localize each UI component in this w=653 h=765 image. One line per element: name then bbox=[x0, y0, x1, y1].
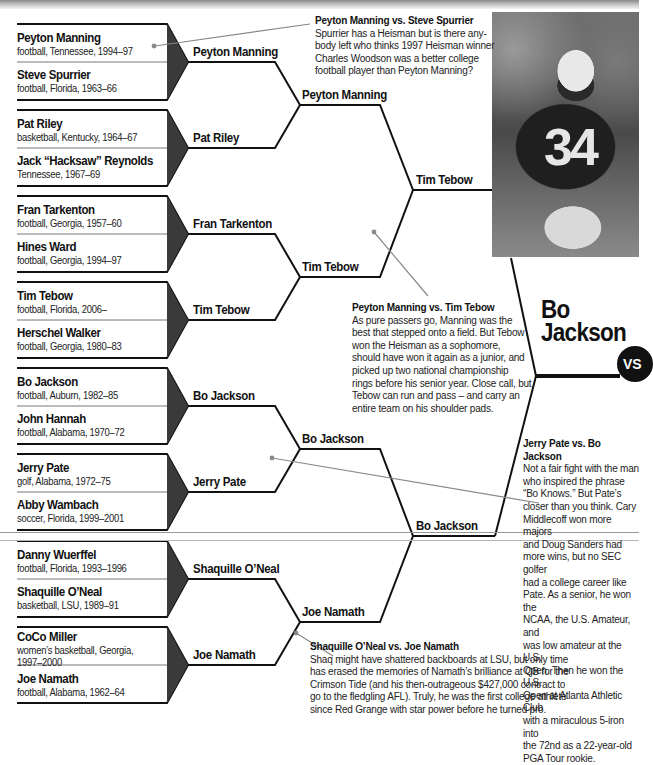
round2-winner: Bo Jackson bbox=[193, 389, 255, 403]
bo-jackson-photo: 34 bbox=[492, 12, 639, 257]
entrant: Joe Namathfootball, Alabama, 1962–64 bbox=[17, 672, 165, 698]
round3-winner: Peyton Manning bbox=[302, 88, 387, 102]
jersey-number: 34 bbox=[544, 117, 596, 177]
note-manning-spurrier: Peyton Manning vs. Steve Spurrier Spurri… bbox=[315, 15, 495, 78]
round2-winner: Fran Tarkenton bbox=[193, 217, 272, 231]
round3-winner: Bo Jackson bbox=[302, 432, 364, 446]
note-manning-tebow: Peyton Manning vs. Tim Tebow As pure pas… bbox=[352, 302, 542, 415]
entrant: Abby Wambachsoccer, Florida, 1999–2001 bbox=[17, 498, 165, 524]
round3-winner: Joe Namath bbox=[302, 605, 364, 619]
entrant: Hines Wardfootball, Georgia, 1994–97 bbox=[17, 240, 165, 266]
entrant: Danny Wuerffelfootball, Florida, 1993–19… bbox=[17, 548, 165, 574]
entrant: Steve Spurrierfootball, Florida, 1963–66 bbox=[17, 68, 165, 94]
vs-badge: VS bbox=[617, 346, 653, 382]
entrant: Bo Jacksonfootball, Auburn, 1982–85 bbox=[17, 375, 165, 401]
round2-winner: Pat Riley bbox=[193, 131, 239, 145]
entrant: Shaquille O’Nealbasketball, LSU, 1989–91 bbox=[17, 585, 165, 611]
champion-name: Bo Jackson bbox=[541, 298, 626, 344]
entrant: Jerry Pategolf, Alabama, 1972–75 bbox=[17, 461, 165, 487]
entrant: Fran Tarkentonfootball, Georgia, 1957–60 bbox=[17, 203, 165, 229]
entrant: Herschel Walkerfootball, Georgia, 1980–8… bbox=[17, 326, 165, 352]
round2-winner: Tim Tebow bbox=[193, 303, 250, 317]
round4-winner: Tim Tebow bbox=[416, 173, 473, 187]
entrant: John Hannahfootball, Alabama, 1970–72 bbox=[17, 412, 165, 438]
entrant: CoCo Millerwomen’s basketball, Georgia,1… bbox=[17, 630, 165, 668]
entrant: Peyton Manningfootball, Tennessee, 1994–… bbox=[17, 31, 165, 57]
entrant: Pat Rileybasketball, Kentucky, 1964–67 bbox=[17, 117, 165, 143]
round2-winner: Jerry Pate bbox=[193, 475, 246, 489]
entrant: Jack “Hacksaw” ReynoldsTennessee, 1967–6… bbox=[17, 154, 165, 180]
entrant: Tim Tebowfootball, Florida, 2006– bbox=[17, 289, 165, 315]
round2-winner: Peyton Manning bbox=[193, 45, 278, 59]
round3-winner: Tim Tebow bbox=[302, 260, 359, 274]
round4-winner: Bo Jackson bbox=[416, 519, 478, 533]
note-oneal-namath: Shaquille O’Neal vs. Joe Namath Shaq mig… bbox=[310, 641, 570, 717]
round2-winner: Joe Namath bbox=[193, 648, 255, 662]
round2-winner: Shaquille O’Neal bbox=[193, 562, 279, 576]
